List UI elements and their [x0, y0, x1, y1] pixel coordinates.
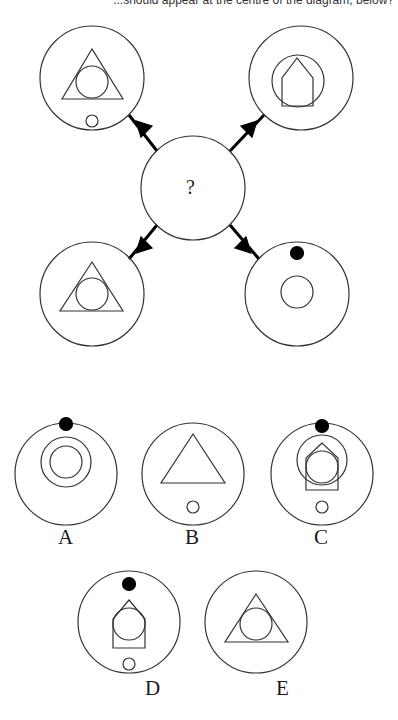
small-circle: [187, 501, 199, 513]
arrowhead-top-right: [241, 121, 257, 137]
inner-circle: [306, 451, 338, 483]
arrowhead-top-left: [136, 121, 152, 137]
input-top-right: [249, 26, 353, 130]
arrowhead-bottom-left: [136, 237, 152, 253]
black-dot: [291, 247, 304, 260]
small-circle: [123, 658, 135, 670]
small-circle: [86, 115, 98, 127]
center-question-mark: ?: [186, 176, 195, 199]
black-dot: [60, 418, 73, 431]
outer-circle: [249, 26, 353, 130]
triangle-shape: [62, 49, 123, 99]
arrowhead-bottom-right: [235, 237, 251, 253]
option-a[interactable]: [15, 418, 117, 526]
input-bottom-left: [40, 242, 144, 346]
option-b[interactable]: [142, 423, 244, 525]
black-dot: [123, 578, 136, 591]
small-circle: [316, 501, 328, 513]
medium-circle: [272, 55, 324, 107]
connector-top-right: [230, 115, 264, 151]
black-dot: [316, 420, 329, 433]
outer-circle: [15, 423, 117, 525]
option-label-c[interactable]: C: [314, 525, 328, 550]
option-label-d[interactable]: D: [145, 676, 160, 701]
inner-circle: [281, 276, 313, 308]
outer-circle: [205, 571, 307, 673]
outer-circle: [142, 423, 244, 525]
option-label-b[interactable]: B: [185, 525, 199, 550]
house-pentagon-shape: [282, 58, 313, 106]
medium-circle: [41, 437, 91, 487]
option-label-e[interactable]: E: [276, 676, 289, 701]
outer-circle: [40, 242, 144, 346]
input-top-left: [40, 26, 144, 130]
triangle-shape: [60, 262, 123, 311]
house-pentagon-shape: [113, 600, 145, 648]
triangle-shape: [225, 594, 288, 642]
inner-circle: [76, 278, 108, 310]
option-label-a[interactable]: A: [58, 525, 73, 550]
option-c[interactable]: [271, 420, 373, 526]
inner-circle: [113, 608, 145, 640]
inner-circle: [76, 66, 108, 98]
option-e[interactable]: [205, 571, 307, 673]
puzzle-diagram: [0, 0, 398, 720]
option-d[interactable]: [78, 571, 180, 673]
inner-circle: [50, 446, 82, 478]
input-bottom-right: [245, 242, 349, 346]
triangle-shape: [161, 434, 225, 483]
inner-circle: [240, 608, 272, 640]
outer-circle: [271, 423, 373, 525]
